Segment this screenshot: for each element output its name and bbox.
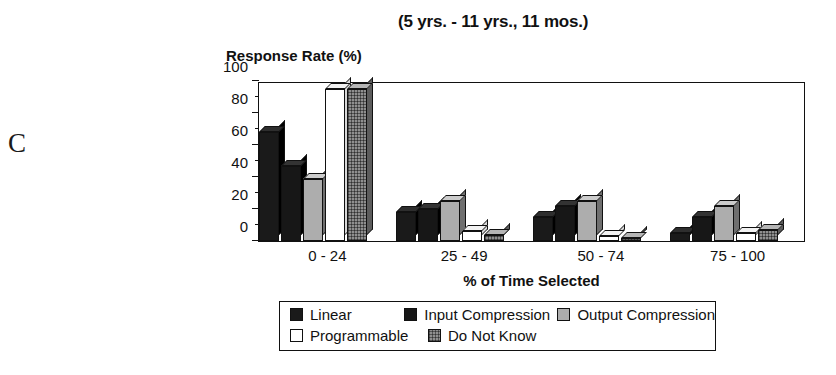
y-axis-tick-label: 60: [231, 123, 248, 138]
bar-input-compression-50-74: [555, 206, 575, 241]
legend-swatch-programmable: [290, 329, 303, 342]
bar-do-not-know-50-74: [621, 238, 641, 241]
bar-output-compression-0-24: [303, 179, 323, 241]
legend-swatch-output-compression: [557, 308, 570, 321]
legend-label-input-compression: Input Compression: [424, 307, 550, 322]
plot-area: 0204060801000 - 2425 - 4950 - 7475 - 100…: [258, 82, 805, 242]
legend-swatch-input-compression: [404, 308, 417, 321]
bar-do-not-know-0-24: [347, 89, 367, 241]
bar-output-compression-50-74: [577, 201, 597, 241]
bar-face: [555, 206, 575, 241]
chart-title: (5 yrs. - 11 yrs., 11 mos.): [398, 12, 588, 32]
x-axis-tick-label: 25 - 49: [441, 247, 488, 264]
x-axis-tick-label: 50 - 74: [578, 247, 625, 264]
bar-face: [325, 89, 345, 241]
bar-face: [670, 233, 690, 241]
bar-do-not-know-75-100: [758, 230, 778, 241]
y-axis-tick-label: 20: [231, 187, 248, 202]
bar-side: [367, 77, 373, 235]
bar-face: [259, 132, 279, 241]
y-axis-tick-label: 100: [223, 59, 248, 74]
bar-face: [621, 238, 641, 241]
bar-input-compression-75-100: [692, 217, 712, 241]
y-axis-tick-label: 40: [231, 155, 248, 170]
chart-legend: Linear Input Compression Output Compress…: [279, 301, 716, 351]
x-axis-tick-label: 75 - 100: [710, 247, 765, 264]
bar-linear-0-24: [259, 132, 279, 241]
y-axis-tick: [252, 144, 259, 145]
y-axis-tick: [252, 240, 259, 241]
bar-face: [303, 179, 323, 241]
bar-face: [599, 236, 619, 241]
bar-linear-50-74: [533, 217, 553, 241]
panel-letter: C: [8, 128, 26, 159]
bar-face: [396, 212, 416, 241]
y-axis-tick-label: 80: [231, 91, 248, 106]
bar-do-not-know-25-49: [484, 235, 504, 241]
legend-item-linear: Linear: [290, 307, 404, 322]
legend-label-output-compression: Output Compression: [577, 307, 715, 322]
bar-face: [418, 209, 438, 241]
legend-label-linear: Linear: [310, 307, 352, 322]
bar-programmable-75-100: [736, 233, 756, 241]
bar-programmable-0-24: [325, 89, 345, 241]
x-axis-title: % of Time Selected: [463, 272, 599, 289]
legend-swatch-do-not-know: [428, 329, 441, 342]
legend-item-programmable: Programmable: [290, 328, 428, 343]
bar-linear-25-49: [396, 212, 416, 241]
y-axis-tick-label: 0: [240, 219, 248, 234]
bar-input-compression-0-24: [281, 166, 301, 241]
bar-face: [714, 206, 734, 241]
legend-item-input-compression: Input Compression: [404, 307, 557, 322]
bar-face: [758, 230, 778, 241]
y-axis-tick: [252, 80, 259, 81]
bar-face: [484, 235, 504, 241]
plot-inner: 0204060801000 - 2425 - 4950 - 7475 - 100…: [259, 83, 804, 241]
legend-label-programmable: Programmable: [310, 328, 408, 343]
legend-item-do-not-know: Do Not Know: [428, 328, 536, 343]
bar-input-compression-25-49: [418, 209, 438, 241]
bar-output-compression-25-49: [440, 201, 460, 241]
x-axis-tick-label: 0 - 24: [308, 247, 346, 264]
bar-face: [347, 89, 367, 241]
bar-programmable-25-49: [462, 231, 482, 241]
bar-face: [440, 201, 460, 241]
bar-programmable-50-74: [599, 236, 619, 241]
y-axis-minor-tick: [255, 128, 259, 129]
y-axis-tick: [252, 112, 259, 113]
bar-output-compression-75-100: [714, 206, 734, 241]
y-axis-tick: [252, 208, 259, 209]
bar-face: [577, 201, 597, 241]
legend-row: Programmable Do Not Know: [290, 328, 715, 349]
y-axis-tick: [252, 176, 259, 177]
bar-face: [736, 233, 756, 241]
figure-panel: C (5 yrs. - 11 yrs., 11 mos.) Response R…: [0, 0, 836, 375]
bar-linear-75-100: [670, 233, 690, 241]
y-axis-minor-tick: [255, 96, 259, 97]
bar-face: [533, 217, 553, 241]
bar-face: [462, 231, 482, 241]
bar-face: [692, 217, 712, 241]
legend-item-output-compression: Output Compression: [557, 307, 715, 322]
legend-swatch-linear: [290, 308, 303, 321]
bar-face: [281, 166, 301, 241]
legend-row: Linear Input Compression Output Compress…: [290, 307, 715, 328]
legend-label-do-not-know: Do Not Know: [448, 328, 536, 343]
